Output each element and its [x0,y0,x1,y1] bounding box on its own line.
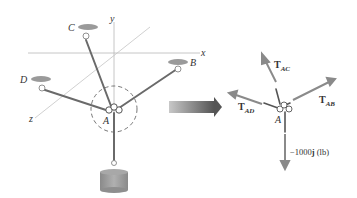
diagram-canvas: y x z C B D A [0,0,357,198]
x-axis-label: x [200,47,206,58]
y-axis-label: y [109,13,115,24]
z-axis-label: z [28,113,33,124]
cable-ac [86,40,111,106]
weight-cylinder [100,169,128,193]
anchor-d [31,76,51,82]
point-c-label: C [68,22,75,33]
free-body-diagram: A TAC TAB TAD −1000j (lb) [229,54,335,169]
tension-ad-label: TAD [238,101,254,115]
point-d-label: D [19,74,28,85]
right-arrow-icon [169,97,222,117]
cable-ab [119,69,177,108]
anchor-b [168,59,188,65]
coordinate-axes: y x z [28,13,206,150]
load-label: −1000j (lb) [290,147,329,157]
anchors: C B D [19,22,196,85]
anchor-c [78,24,98,30]
point-b-label: B [190,57,196,68]
cables [42,40,177,160]
point-a-label: A [102,115,110,126]
fbd-point-a-label: A [274,114,282,125]
cable-ad [42,89,106,110]
tension-ab-label: TAB [319,94,335,108]
tension-ac-label: TAC [274,59,290,73]
